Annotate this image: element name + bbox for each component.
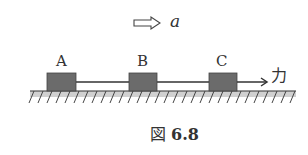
block-a-label: A (56, 52, 67, 70)
acceleration-arrow-icon (134, 17, 160, 29)
force-arrow-icon (237, 78, 267, 86)
caption-number: 6.8 (171, 125, 199, 144)
figure-caption: 図6.8 (150, 121, 199, 145)
block-c (209, 73, 237, 91)
caption-prefix: 図 (150, 125, 166, 144)
diagram-figure: a A B C 力 図6.8 (0, 0, 308, 155)
block-b (129, 73, 157, 91)
block-c-label: C (216, 52, 227, 70)
block-a (47, 73, 76, 91)
acceleration-label: a (170, 11, 180, 31)
block-b-label: B (137, 52, 148, 70)
ground (29, 91, 296, 103)
force-label: 力 (271, 62, 287, 86)
